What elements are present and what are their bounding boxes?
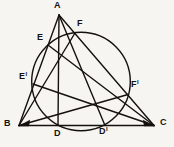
label-F-base: F [77,18,83,28]
label-E1-base: E [19,71,25,81]
label-D1: Dl [99,127,107,137]
vertex-C-wedge [143,120,155,126]
label-B-base: B [4,118,11,128]
label-D1-base: D [99,126,106,136]
label-E1-prime: l [26,71,28,77]
label-A-base: A [54,0,61,10]
label-C-base: C [160,117,167,127]
label-C: C [160,118,167,128]
label-B: B [4,119,11,129]
label-E: E [37,33,43,43]
label-F1-prime: l [137,79,139,85]
label-E-base: E [37,32,43,42]
label-E1: El [19,72,27,82]
label-D-base: D [54,128,61,138]
label-D: D [54,129,61,139]
cevian-AD [58,15,59,126]
label-A: A [54,1,61,11]
label-F1-base: F [131,79,137,89]
label-F: F [77,19,83,29]
label-F1: Fl [131,80,138,90]
geometry-figure: A F E El Fl B D Dl C [0,0,174,147]
label-D1-prime: l [106,126,108,132]
